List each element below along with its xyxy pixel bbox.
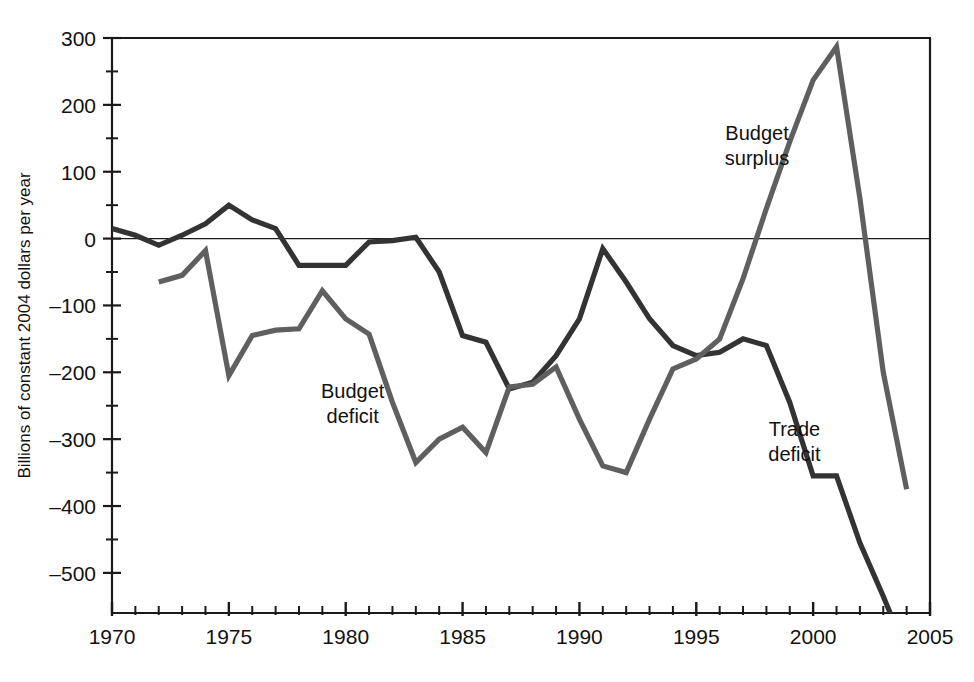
y-tick-label: –200 bbox=[49, 361, 96, 384]
y-axis-title: Billions of constant 2004 dollars per ye… bbox=[15, 172, 34, 479]
x-axis-tick-labels: 19701975198019851990199520002005 bbox=[89, 625, 954, 648]
chart-figure: 3002001000–100–200–300–400–500 197019751… bbox=[0, 0, 974, 682]
y-tick-label: 200 bbox=[61, 94, 96, 117]
y-tick-label: –500 bbox=[49, 562, 96, 585]
y-tick-label: –100 bbox=[49, 294, 96, 317]
plot-border bbox=[112, 38, 930, 613]
y-tick-label: –400 bbox=[49, 495, 96, 518]
annotation-budget-deficit-line2: deficit bbox=[327, 405, 380, 427]
x-tick-label: 1980 bbox=[322, 625, 369, 648]
y-axis-title-text: Billions of constant 2004 dollars per ye… bbox=[15, 172, 34, 479]
annotation-budget-surplus-line1: Budget bbox=[725, 122, 789, 144]
plot-frame bbox=[112, 38, 930, 613]
y-tick-label: 0 bbox=[84, 228, 96, 251]
x-tick-label: 1975 bbox=[205, 625, 252, 648]
x-tick-label: 1985 bbox=[439, 625, 486, 648]
annotation-budget-surplus-line2: surplus bbox=[725, 147, 789, 169]
x-tick-label: 1995 bbox=[673, 625, 720, 648]
x-tick-label: 1970 bbox=[89, 625, 136, 648]
chart-canvas: 3002001000–100–200–300–400–500 197019751… bbox=[0, 0, 974, 682]
x-tick-label: 1990 bbox=[556, 625, 603, 648]
annotation-trade-deficit-line2: deficit bbox=[768, 443, 821, 465]
x-tick-label: 2005 bbox=[907, 625, 954, 648]
annotation-budget-deficit-line1: Budget bbox=[321, 380, 385, 402]
y-tick-label: 100 bbox=[61, 161, 96, 184]
y-tick-label: 300 bbox=[61, 27, 96, 50]
x-tick-label: 2000 bbox=[790, 625, 837, 648]
y-axis-tick-labels: 3002001000–100–200–300–400–500 bbox=[49, 27, 96, 585]
annotation-trade-deficit-line1: Trade bbox=[769, 418, 821, 440]
y-tick-label: –300 bbox=[49, 428, 96, 451]
